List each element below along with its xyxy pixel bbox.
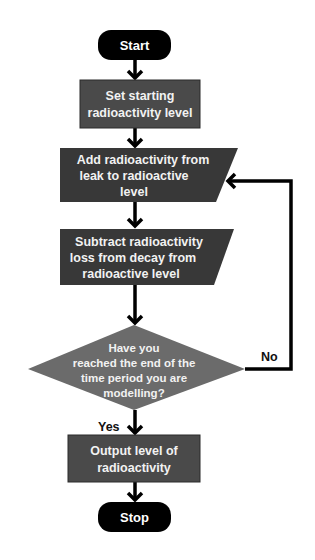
decision-line-3: time period you are (81, 372, 187, 384)
set-level-line-2: radioactivity level (88, 106, 193, 120)
start-label: Start (120, 38, 150, 53)
add-leak-line-1: Add radioactivity from (77, 153, 210, 167)
add-leak-line-3: level (120, 185, 148, 199)
edge-label-no: No (261, 350, 278, 364)
output-line-1: Output level of (90, 444, 178, 458)
subtract-decay-line-3: radioactive level (82, 267, 179, 281)
subtract-decay-line-2: loss from decay from (70, 251, 196, 265)
stop-label: Stop (120, 510, 149, 525)
flowchart: Start Set starting radioactivity level A… (0, 0, 315, 560)
decision-line-2: reached the end of the (73, 357, 196, 369)
add-leak-line-2: leak to radioactive (79, 169, 188, 183)
node-output: Output level of radioactivity (68, 435, 200, 482)
node-subtract-decay: Subtract radioactivity loss from decay f… (60, 229, 234, 285)
node-add-leak: Add radioactivity from leak to radioacti… (60, 148, 238, 202)
subtract-decay-line-1: Subtract radioactivity (75, 235, 203, 249)
decision-line-1: Have you (108, 342, 159, 354)
node-stop: Stop (98, 502, 171, 532)
set-level-line-1: Set starting (106, 89, 175, 103)
node-decision: Have you reached the end of the time per… (28, 325, 245, 410)
node-start: Start (98, 30, 171, 60)
decision-line-4: modelling? (103, 387, 164, 399)
node-set-level: Set starting radioactivity level (80, 80, 200, 128)
edge-label-yes: Yes (98, 420, 120, 434)
edge-decision-no-loop (228, 181, 291, 369)
output-line-2: radioactivity (97, 461, 171, 475)
